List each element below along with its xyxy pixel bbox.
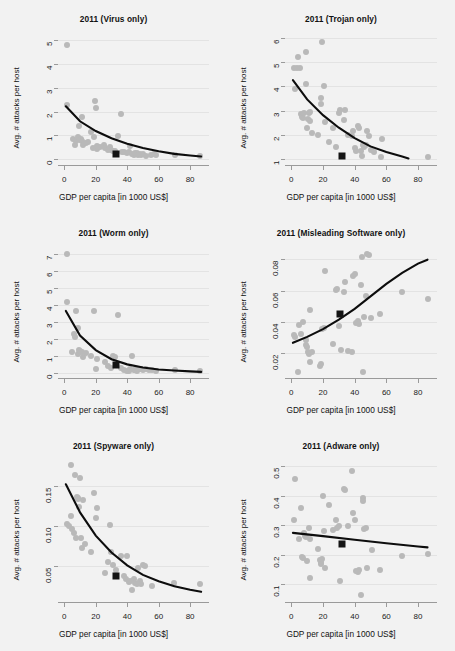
- figure-panel-grid: 2011 (Virus only)Avg. # attacks per host…: [0, 0, 455, 651]
- data-point: [425, 296, 431, 302]
- y-axis-tick: [54, 159, 58, 160]
- data-point: [321, 528, 327, 534]
- data-point: [69, 349, 75, 355]
- chart-panel: 2011 (Spyware only)Avg. # attacks per ho…: [0, 427, 227, 651]
- plot-area: 0.050.100.15020406080: [58, 461, 209, 603]
- data-point: [368, 315, 374, 321]
- x-axis-tick-label: 60: [382, 388, 391, 397]
- x-axis-tick-label: 60: [154, 612, 163, 621]
- data-point: [197, 368, 203, 374]
- data-point: [307, 575, 313, 581]
- data-point: [291, 517, 297, 523]
- y-axis-tick: [281, 496, 285, 497]
- data-point: [350, 128, 356, 134]
- data-point: [358, 282, 364, 288]
- y-axis-tick: [281, 353, 285, 354]
- x-axis-tick-label: 20: [91, 612, 100, 621]
- gridline: [285, 135, 437, 136]
- x-axis-tick-label: 20: [91, 388, 100, 397]
- chart-title: 2011 (Worm only): [6, 228, 221, 238]
- x-axis-tick: [96, 603, 97, 607]
- y-axis-tick: [281, 111, 285, 112]
- data-point: [341, 117, 347, 123]
- y-axis-tick: [54, 526, 58, 527]
- x-axis-tick-label: 80: [186, 388, 195, 397]
- highlight-marker: [113, 150, 120, 157]
- y-axis-tick-label: 0.06: [272, 292, 281, 308]
- y-axis-tick: [54, 373, 58, 374]
- y-axis-tick: [54, 88, 58, 89]
- data-point: [153, 368, 159, 374]
- panel-background: 2011 (Spyware only)Avg. # attacks per ho…: [6, 435, 221, 645]
- x-axis-tick: [96, 166, 97, 170]
- gridline: [58, 254, 209, 255]
- x-axis-tick-label: 0: [289, 388, 293, 397]
- x-axis-tick: [190, 166, 191, 170]
- data-point: [197, 581, 203, 587]
- y-axis-tick-label: 0.10: [45, 527, 54, 543]
- y-axis-tick-label: 6: [272, 39, 281, 43]
- y-axis-tick: [54, 40, 58, 41]
- x-axis-line: [285, 602, 437, 603]
- data-point: [80, 497, 86, 503]
- y-axis-tick-label: 0.2: [272, 556, 281, 567]
- x-axis-label: GDP per capita [in 1000 US$]: [6, 192, 221, 202]
- x-axis-line: [58, 602, 209, 603]
- panel-background: 2011 (Worm only)Avg. # attacks per hostG…: [6, 222, 221, 421]
- data-point: [369, 547, 375, 553]
- y-axis-tick-label: 0: [45, 374, 54, 378]
- data-point: [118, 111, 124, 117]
- gridline: [58, 159, 209, 160]
- data-point: [326, 502, 332, 508]
- data-point: [172, 152, 178, 158]
- data-point: [319, 39, 325, 45]
- y-axis-tick: [281, 38, 285, 39]
- gridline: [58, 40, 209, 41]
- data-point: [342, 107, 348, 113]
- x-axis-tick: [323, 166, 324, 170]
- data-point: [330, 125, 336, 131]
- data-point: [307, 118, 313, 124]
- data-point: [377, 567, 383, 573]
- x-axis-tick-label: 20: [91, 175, 100, 184]
- data-point: [363, 525, 369, 531]
- data-point: [319, 556, 325, 562]
- y-axis-tick: [54, 271, 58, 272]
- data-point: [124, 553, 130, 559]
- data-point: [322, 268, 328, 274]
- y-axis-tick-label: 0.04: [272, 323, 281, 339]
- data-point: [306, 525, 312, 531]
- x-axis-tick-label: 0: [62, 612, 66, 621]
- plot-area: 01234567020406080: [58, 248, 209, 379]
- gridline: [58, 339, 209, 340]
- y-axis-tick-label: 3: [272, 112, 281, 116]
- x-axis-label: GDP per capita [in 1000 US$]: [233, 405, 449, 415]
- data-point: [334, 286, 340, 292]
- data-point: [115, 133, 121, 139]
- data-point: [102, 570, 108, 576]
- y-axis-tick: [54, 339, 58, 340]
- chart-title: 2011 (Misleading Software only): [233, 228, 449, 238]
- y-axis-tick: [54, 254, 58, 255]
- data-point: [341, 289, 347, 295]
- data-point: [307, 109, 313, 115]
- x-axis-tick: [159, 166, 160, 170]
- data-point: [76, 504, 82, 510]
- data-point: [358, 592, 364, 598]
- data-point: [307, 307, 313, 313]
- data-point: [64, 251, 70, 257]
- data-point: [364, 565, 370, 571]
- data-point: [366, 252, 372, 258]
- data-point: [91, 308, 97, 314]
- gridline: [285, 584, 437, 585]
- data-point: [350, 510, 356, 516]
- data-point: [82, 541, 88, 547]
- data-point: [349, 349, 355, 355]
- x-axis-tick-label: 80: [414, 388, 423, 397]
- plot-area: 0.10.20.30.40.5020406080: [285, 461, 437, 603]
- y-axis-tick-label: 0.08: [272, 261, 281, 277]
- data-point: [93, 366, 99, 372]
- data-point: [112, 354, 118, 360]
- x-axis-tick-label: 80: [414, 175, 423, 184]
- data-point: [359, 153, 365, 159]
